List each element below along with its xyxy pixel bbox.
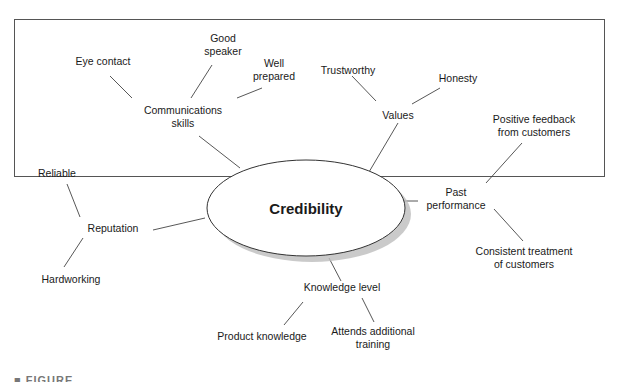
node-attends-training-line1: Attends additional — [331, 325, 414, 338]
node-positive-feedback-line2: from customers — [493, 126, 575, 139]
node-values: Values — [382, 109, 413, 122]
center-node-credibility: Credibility — [269, 200, 342, 217]
node-good-speaker-line1: Good — [204, 32, 241, 45]
node-attends-training: Attends additional training — [331, 325, 414, 351]
node-attends-training-line2: training — [331, 338, 414, 351]
node-product-knowledge: Product knowledge — [217, 330, 306, 343]
node-consistent-treatment-line2: of customers — [476, 258, 573, 271]
node-hardworking: Hardworking — [42, 273, 101, 286]
node-communications-skills: Communications skills — [144, 104, 222, 130]
node-trustworthy: Trustworthy — [321, 64, 375, 77]
node-consistent-treatment-line1: Consistent treatment — [476, 245, 573, 258]
node-good-speaker: Good speaker — [204, 32, 241, 58]
node-well-prepared: Well prepared — [253, 57, 295, 83]
node-communications-skills-line1: Communications — [144, 104, 222, 117]
node-well-prepared-line1: Well — [253, 57, 295, 70]
node-well-prepared-line2: prepared — [253, 70, 295, 83]
figure-caption: ■ FIGURE — [14, 374, 73, 382]
node-communications-skills-line2: skills — [144, 117, 222, 130]
node-past-performance: Past performance — [427, 186, 486, 212]
node-knowledge-level: Knowledge level — [304, 281, 380, 294]
node-honesty: Honesty — [439, 72, 478, 85]
node-past-performance-line1: Past — [427, 186, 486, 199]
node-past-performance-line2: performance — [427, 199, 486, 212]
node-reputation: Reputation — [88, 222, 139, 235]
node-positive-feedback: Positive feedback from customers — [493, 113, 575, 139]
node-eye-contact: Eye contact — [76, 55, 131, 68]
node-reliable: Reliable — [38, 167, 76, 180]
node-good-speaker-line2: speaker — [204, 45, 241, 58]
node-consistent-treatment: Consistent treatment of customers — [476, 245, 573, 271]
node-positive-feedback-line1: Positive feedback — [493, 113, 575, 126]
